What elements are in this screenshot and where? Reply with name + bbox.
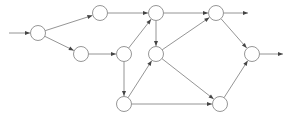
edge-h-to-i: [221, 19, 247, 48]
edge-a-to-c: [45, 36, 74, 50]
graph-node-g: [117, 97, 132, 112]
graph-node-j: [213, 97, 228, 112]
edge-a-to-b: [45, 15, 92, 30]
graph-node-d: [117, 47, 132, 62]
graph-node-a: [31, 26, 46, 41]
graph-node-e: [149, 6, 164, 21]
edge-g-to-f: [128, 61, 152, 98]
graph-node-c: [74, 47, 89, 62]
graph-node-h: [209, 6, 224, 21]
edges-group: [9, 13, 283, 104]
edge-d-to-e: [129, 19, 151, 48]
edge-f-to-j: [162, 59, 214, 99]
graph-node-b: [93, 6, 108, 21]
edge-j-to-i: [224, 61, 248, 98]
directed-graph-canvas: [0, 0, 293, 118]
graph-node-i: [245, 47, 260, 62]
edge-f-to-h: [162, 18, 209, 50]
graph-node-f: [149, 47, 164, 62]
